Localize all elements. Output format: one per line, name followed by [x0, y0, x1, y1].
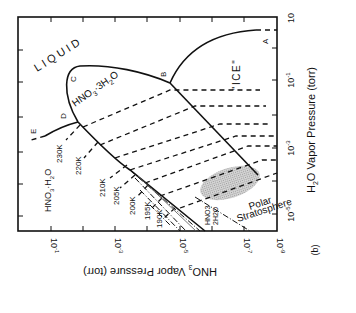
svg-text:H2O Vapor Pressure (torr): H2O Vapor Pressure (torr) [305, 67, 319, 193]
isotherm-205k: 205K [112, 186, 121, 205]
svg-text:10-1: 10-1 [49, 238, 60, 254]
label-ice: "ICE" [231, 59, 242, 90]
x-tick-labels: 10-1 10-3 10-5 10-7 10-9 [49, 238, 286, 254]
isotherm-195k: 195K [143, 201, 152, 220]
label-nat: HNO3·3H2O [70, 69, 122, 111]
svg-text:HNO3: HNO3 [204, 205, 211, 225]
isotherm-190k: 190K [155, 209, 164, 228]
x-axis-title: HNO3 Vapor Pressure (torr) [83, 264, 217, 278]
label-liquid: LIQUID [32, 35, 85, 74]
point-b: B [159, 72, 168, 77]
isotherm-230k: 230K [55, 144, 64, 163]
point-c: C [69, 76, 78, 82]
svg-text:10-5: 10-5 [178, 238, 189, 254]
isotherm-220k: 220K [74, 156, 83, 175]
panel-label: (b) [310, 244, 320, 255]
svg-text:10-9: 10-9 [275, 238, 286, 254]
curve-e-extension [28, 136, 45, 141]
svg-text:HNO3·H2O: HNO3·H2O [43, 169, 55, 212]
isotherms [66, 90, 277, 219]
svg-text:10-1: 10-1 [285, 72, 296, 88]
svg-text:HNO3 Vapor Pressure (torr): HNO3 Vapor Pressure (torr) [83, 264, 217, 278]
point-a: A [261, 38, 270, 44]
svg-text:10-7: 10-7 [242, 238, 253, 254]
label-nad: HNO3 2H2O [204, 205, 219, 225]
phase-boundaries [45, 30, 258, 231]
svg-text:(b): (b) [310, 244, 320, 255]
svg-text:10: 10 [286, 13, 296, 23]
point-d: D [59, 113, 68, 119]
svg-text:10-3: 10-3 [285, 140, 296, 156]
svg-text:10-5: 10-5 [285, 206, 296, 222]
svg-text:10-3: 10-3 [113, 238, 124, 254]
isotherm-210k: 210K [98, 178, 107, 197]
label-nam: HNO3·H2O [43, 169, 55, 212]
isotherm-200k: 200K [128, 196, 137, 215]
svg-text:2H2O: 2H2O [212, 206, 219, 225]
y-tick-labels: 10 10-1 10-3 10-5 [285, 13, 296, 222]
y-axis-title: H2O Vapor Pressure (torr) [305, 67, 319, 193]
point-e: E [29, 129, 38, 134]
svg-text:HNO3·3H2O: HNO3·3H2O [70, 69, 122, 111]
phase-diagram: LIQUID "ICE" HNO3·3H2O HNO3·H2O HNO3 2H2… [0, 0, 356, 313]
